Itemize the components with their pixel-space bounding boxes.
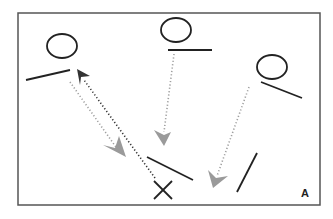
panel-label: A bbox=[301, 187, 309, 199]
diagram-canvas: A bbox=[0, 0, 333, 219]
figure-frame bbox=[18, 13, 320, 205]
